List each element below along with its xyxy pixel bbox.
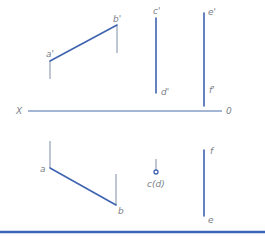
axis-label-o: 0: [226, 106, 232, 116]
projection-diagram: a' b' c' d' e' f' X 0 a b c(d) f e: [0, 0, 265, 236]
label-d-prime: d': [161, 87, 169, 97]
label-c-prime: c': [153, 6, 160, 16]
front-view-line-ef: e' f': [204, 7, 216, 106]
top-view-line-ab: a b: [40, 141, 124, 216]
front-view-line-ab: a' b': [46, 14, 121, 79]
top-view-line-ef: f e: [204, 146, 215, 225]
label-f-prime: f': [209, 85, 215, 95]
axis-label-x: X: [15, 106, 23, 116]
label-b: b: [118, 206, 124, 216]
front-view-line-cd: c' d': [153, 6, 169, 97]
label-e: e: [208, 215, 214, 225]
segment-a-prime-b-prime: [50, 25, 117, 61]
point-cd-icon: [154, 170, 158, 174]
top-view-point-cd: c(d): [147, 159, 165, 189]
segment-a-b: [50, 168, 116, 205]
label-b-prime: b': [113, 14, 121, 24]
label-a-prime: a': [46, 49, 54, 59]
label-a: a: [40, 164, 46, 174]
xo-axis: X 0: [15, 106, 232, 116]
label-f: f: [210, 146, 215, 156]
label-e-prime: e': [208, 7, 216, 17]
label-c-d: c(d): [147, 179, 165, 189]
